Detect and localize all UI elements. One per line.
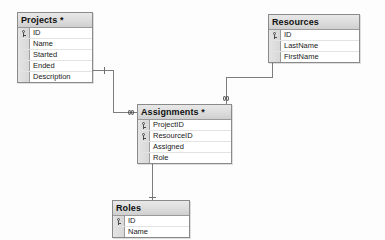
entity-field-list: ID LastName FirstName: [269, 30, 359, 62]
field-label: Role: [150, 153, 231, 163]
primary-key-icon: [272, 32, 277, 39]
entity-table-projects[interactable]: Projects * ID Name Started Ended: [17, 12, 93, 83]
field-label: ProjectID: [150, 120, 231, 130]
key-gutter: [113, 216, 125, 226]
key-gutter: [269, 52, 281, 62]
field-row[interactable]: Description: [18, 72, 92, 82]
field-row[interactable]: ProjectID: [138, 120, 231, 131]
field-label: ID: [281, 30, 359, 40]
field-label: ID: [125, 216, 189, 226]
entity-table-assignments[interactable]: Assignments * ProjectID ResourceID: [137, 104, 232, 164]
cardinality-one-marker: [104, 67, 105, 74]
primary-key-icon: [116, 218, 121, 225]
entity-table-roles[interactable]: Roles ID Name: [112, 200, 190, 238]
field-row[interactable]: Assigned: [138, 142, 231, 153]
field-row[interactable]: ID: [113, 216, 189, 227]
field-label: Description: [30, 72, 92, 82]
cardinality-one-marker: [149, 197, 156, 198]
field-row[interactable]: ID: [269, 30, 359, 41]
key-gutter: [18, 50, 30, 60]
field-row[interactable]: LastName: [269, 41, 359, 52]
entity-field-list: ID Name Started Ended Description: [18, 28, 92, 82]
key-gutter: [113, 227, 125, 237]
primary-key-icon: [21, 30, 26, 37]
key-gutter: [18, 39, 30, 49]
field-label: ResourceID: [150, 131, 231, 141]
key-gutter: [18, 28, 30, 38]
field-row[interactable]: FirstName: [269, 52, 359, 62]
key-gutter: [269, 30, 281, 40]
field-row[interactable]: Ended: [18, 61, 92, 72]
field-row[interactable]: Started: [18, 50, 92, 61]
entity-table-resources[interactable]: Resources ID LastName FirstName: [268, 14, 360, 63]
field-label: Name: [30, 39, 92, 49]
field-label: Name: [125, 227, 189, 237]
key-gutter: [138, 142, 150, 152]
field-label: LastName: [281, 41, 359, 51]
field-row[interactable]: ID: [18, 28, 92, 39]
primary-key-icon: [141, 122, 146, 129]
field-row[interactable]: ResourceID: [138, 131, 231, 142]
key-gutter: [138, 120, 150, 130]
field-row[interactable]: Name: [18, 39, 92, 50]
diagram-canvas: Projects * ID Name Started Ended: [0, 0, 385, 240]
entity-title-projects: Projects *: [18, 13, 92, 28]
cardinality-many-marker: [223, 96, 230, 101]
field-label: Started: [30, 50, 92, 60]
field-row[interactable]: Name: [113, 227, 189, 237]
field-label: Assigned: [150, 142, 231, 152]
cardinality-many-marker: [128, 110, 135, 115]
entity-field-list: ProjectID ResourceID Assigned Role: [138, 120, 231, 163]
entity-field-list: ID Name: [113, 216, 189, 237]
connector-segment: [152, 159, 153, 200]
entity-title-roles: Roles: [113, 201, 189, 216]
primary-key-icon: [141, 133, 146, 140]
key-gutter: [18, 72, 30, 82]
key-gutter: [138, 153, 150, 163]
field-label: ID: [30, 28, 92, 38]
connector-segment: [113, 70, 114, 112]
field-label: Ended: [30, 61, 92, 71]
connector-segment: [226, 77, 273, 78]
key-gutter: [138, 131, 150, 141]
key-gutter: [18, 61, 30, 71]
key-gutter: [269, 41, 281, 51]
entity-title-resources: Resources: [269, 15, 359, 30]
field-label: FirstName: [281, 52, 359, 62]
field-row[interactable]: Role: [138, 153, 231, 163]
entity-title-assignments: Assignments *: [138, 105, 231, 120]
